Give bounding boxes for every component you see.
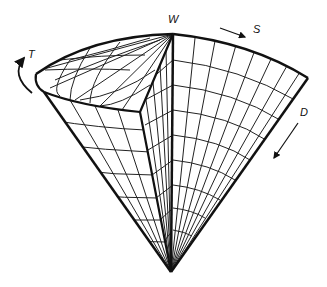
t-rotation-arrow-icon: [19, 58, 32, 93]
label-s: S: [253, 23, 260, 35]
cone-drawing: [0, 0, 327, 287]
cone-outline: [36, 34, 308, 272]
label-w: W: [168, 13, 178, 25]
label-t: T: [28, 48, 35, 60]
right-face-grid: [171, 38, 300, 272]
s-arrow-icon: [220, 28, 245, 37]
cone-diagram: W S T D: [0, 0, 327, 287]
d-arrow-icon: [274, 123, 298, 158]
label-d: D: [300, 106, 308, 118]
